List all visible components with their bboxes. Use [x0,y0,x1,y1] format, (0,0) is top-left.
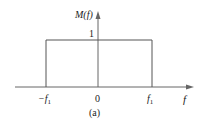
x-tick-neg-f1: −f1 [38,93,52,106]
x-tick-zero: 0 [95,93,100,104]
x-axis-label: f [183,93,188,105]
x-axis-arrow-icon [186,85,194,90]
x-tick-f1: f1 [147,93,154,106]
y-axis-label: M(f) [74,9,93,21]
y-level-label: 1 [89,28,94,39]
figure-caption: (a) [89,107,100,119]
rect-pulse [46,40,152,87]
rect-function-diagram: M(f) 1 −f1 0 f1 f (a) [0,0,204,123]
y-axis-arrow-icon [96,11,101,19]
